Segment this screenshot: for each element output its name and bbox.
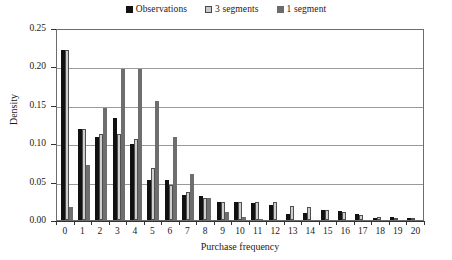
x-axis-tick-label: 0 xyxy=(56,226,74,240)
x-axis-tick-label: 8 xyxy=(196,226,214,240)
y-axis-tick-mark xyxy=(51,183,56,184)
x-axis-tick-mark xyxy=(424,222,425,225)
bar-group xyxy=(249,30,266,220)
y-axis-tick-mark xyxy=(51,144,56,145)
x-axis-tick-mark xyxy=(196,222,197,225)
bar-group xyxy=(301,30,318,220)
bar-group xyxy=(110,30,127,220)
y-axis-tick-label: 0.00 xyxy=(0,216,46,226)
bar-1-segment-0 xyxy=(69,207,73,220)
bar-group xyxy=(197,30,214,220)
x-axis-tick-label: 12 xyxy=(266,226,284,240)
bar-group xyxy=(93,30,110,220)
observations-swatch-icon xyxy=(126,6,133,13)
x-axis-tick-mark xyxy=(161,222,162,225)
bar-1-segment-11 xyxy=(259,219,263,220)
bar-3-segments-13 xyxy=(290,206,294,220)
x-axis-tick-label: 14 xyxy=(301,226,319,240)
bar-1-segment-2 xyxy=(103,108,107,220)
plot-area xyxy=(56,29,424,221)
x-axis-tick-mark xyxy=(126,222,127,225)
bar-group xyxy=(405,30,422,220)
y-axis-tick-label: 0.10 xyxy=(0,139,46,149)
chart-legend: Observations 3 segments 1 segment xyxy=(0,4,452,14)
bar-1-segment-5 xyxy=(155,101,159,220)
bar-group xyxy=(335,30,352,220)
bar-group xyxy=(318,30,335,220)
density-bar-chart: Observations 3 segments 1 segment 0.250.… xyxy=(0,0,452,260)
bar-3-segments-18 xyxy=(377,217,381,220)
x-axis-tick-mark xyxy=(249,222,250,225)
x-axis-tick-label: 18 xyxy=(372,226,390,240)
legend-item-three-segments: 3 segments xyxy=(205,4,258,14)
bar-groups xyxy=(57,30,423,220)
y-axis-tick-mark xyxy=(51,221,56,222)
bar-1-segment-3 xyxy=(121,69,125,220)
bar-group xyxy=(214,30,231,220)
bar-3-segments-15 xyxy=(325,210,329,220)
bar-group xyxy=(353,30,370,220)
x-axis-tick-label: 17 xyxy=(354,226,372,240)
x-axis-tick-label: 16 xyxy=(337,226,355,240)
bar-3-segments-12 xyxy=(273,202,277,220)
bar-3-segments-11 xyxy=(255,202,259,220)
x-axis-tick-label: 9 xyxy=(214,226,232,240)
bar-group xyxy=(75,30,92,220)
bar-3-segments-19 xyxy=(394,218,398,220)
bar-1-segment-6 xyxy=(173,137,177,220)
bar-group xyxy=(179,30,196,220)
x-axis-tick-label: 7 xyxy=(179,226,197,240)
legend-label-one-segment: 1 segment xyxy=(287,4,327,14)
x-axis-tick-mark xyxy=(389,222,390,225)
x-axis-tick-label: 4 xyxy=(126,226,144,240)
bar-3-segments-0 xyxy=(65,50,69,220)
x-axis-tick-mark xyxy=(214,222,215,225)
x-axis-tick-label: 13 xyxy=(284,226,302,240)
bar-group xyxy=(370,30,387,220)
bar-3-segments-17 xyxy=(359,215,363,220)
x-axis-tick-label: 20 xyxy=(407,226,425,240)
bar-1-segment-9 xyxy=(225,212,229,220)
x-axis-tick-label: 1 xyxy=(74,226,92,240)
x-axis-tick-label: 3 xyxy=(109,226,127,240)
x-axis-tick-mark xyxy=(179,222,180,225)
x-axis-tick-mark xyxy=(406,222,407,225)
one-segment-swatch-icon xyxy=(277,6,284,13)
bar-3-segments-14 xyxy=(307,207,311,220)
x-axis-tick-mark xyxy=(319,222,320,225)
x-axis-tick-mark xyxy=(91,222,92,225)
x-axis-tick-mark xyxy=(144,222,145,225)
three-segments-swatch-icon xyxy=(205,6,212,13)
y-axis-tick-label: 0.20 xyxy=(0,62,46,72)
bar-1-segment-8 xyxy=(207,198,211,220)
x-axis-tick-label: 15 xyxy=(319,226,337,240)
x-axis-tick-mark xyxy=(336,222,337,225)
bar-1-segment-1 xyxy=(86,165,90,220)
y-axis-tick-mark xyxy=(51,29,56,30)
x-axis-tick-mark xyxy=(371,222,372,225)
x-axis-tick-label: 6 xyxy=(161,226,179,240)
legend-item-one-segment: 1 segment xyxy=(277,4,327,14)
legend-label-three-segments: 3 segments xyxy=(215,4,258,14)
x-axis-title: Purchase frequency xyxy=(56,241,424,252)
x-axis-tick-mark xyxy=(74,222,75,225)
bar-1-segment-4 xyxy=(138,69,142,220)
x-axis-tick-label: 5 xyxy=(144,226,162,240)
bar-3-segments-16 xyxy=(342,212,346,220)
x-axis-tick-mark xyxy=(284,222,285,225)
legend-label-observations: Observations xyxy=(136,4,187,14)
x-axis-tick-mark xyxy=(266,222,267,225)
bar-1-segment-10 xyxy=(242,217,246,220)
x-axis-tick-label: 19 xyxy=(389,226,407,240)
bar-1-segment-7 xyxy=(190,174,194,220)
y-axis-title: Density xyxy=(8,80,19,140)
x-axis-tick-mark xyxy=(56,222,57,225)
x-axis-tick-labels: 01234567891011121314151617181920 xyxy=(56,226,424,240)
bar-group xyxy=(162,30,179,220)
y-axis-tick-mark xyxy=(51,106,56,107)
x-axis-tick-label: 2 xyxy=(91,226,109,240)
x-axis-tick-mark xyxy=(231,222,232,225)
bar-group xyxy=(283,30,300,220)
x-axis-tick-mark xyxy=(109,222,110,225)
bar-group xyxy=(145,30,162,220)
